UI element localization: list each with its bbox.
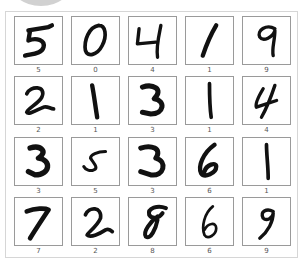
digit-image-3 — [14, 137, 63, 186]
digit-label: 4 — [242, 126, 291, 134]
digit-label: 8 — [128, 247, 177, 255]
handwritten-digit-icon — [15, 77, 62, 124]
digit-label: 5 — [71, 187, 120, 195]
digit-label: 4 — [128, 66, 177, 74]
digit-image-2 — [71, 197, 120, 246]
digit-image-1 — [242, 137, 291, 186]
handwritten-digit-icon — [243, 77, 290, 124]
digit-image-5 — [71, 137, 120, 186]
handwritten-digit-icon — [129, 138, 176, 185]
digit-image-6 — [185, 137, 234, 186]
digit-image-9 — [242, 16, 291, 65]
digit-label: 6 — [185, 247, 234, 255]
decorative-circle — [8, 0, 74, 6]
digit-image-5 — [14, 16, 63, 65]
digit-image-1 — [185, 76, 234, 125]
digit-label: 1 — [242, 187, 291, 195]
digit-image-9 — [242, 197, 291, 246]
handwritten-digit-icon — [186, 77, 233, 124]
digit-label: 6 — [185, 187, 234, 195]
handwritten-digit-icon — [243, 17, 290, 64]
digit-label: 1 — [185, 66, 234, 74]
digit-image-4 — [128, 16, 177, 65]
handwritten-digit-icon — [15, 17, 62, 64]
digit-label: 3 — [128, 126, 177, 134]
digit-label: 1 — [185, 126, 234, 134]
handwritten-digit-icon — [243, 198, 290, 245]
digit-image-7 — [14, 197, 63, 246]
digit-image-3 — [128, 76, 177, 125]
digit-label: 7 — [14, 247, 63, 255]
digit-label: 9 — [242, 247, 291, 255]
handwritten-digit-icon — [72, 17, 119, 64]
digit-label: 1 — [71, 126, 120, 134]
digit-image-6 — [185, 197, 234, 246]
handwritten-digit-icon — [129, 77, 176, 124]
handwritten-digit-icon — [186, 17, 233, 64]
handwritten-digit-icon — [186, 138, 233, 185]
digit-label: 3 — [14, 187, 63, 195]
digit-label: 0 — [71, 66, 120, 74]
digit-label: 3 — [128, 187, 177, 195]
digit-image-1 — [71, 76, 120, 125]
digit-image-3 — [128, 137, 177, 186]
digit-image-0 — [71, 16, 120, 65]
handwritten-digit-icon — [15, 198, 62, 245]
digit-label: 2 — [71, 247, 120, 255]
handwritten-digit-icon — [72, 138, 119, 185]
handwritten-digit-icon — [129, 17, 176, 64]
handwritten-digit-icon — [243, 138, 290, 185]
digit-label: 9 — [242, 66, 291, 74]
handwritten-digit-icon — [15, 138, 62, 185]
handwritten-digit-icon — [186, 198, 233, 245]
handwritten-digit-icon — [72, 77, 119, 124]
digit-image-2 — [14, 76, 63, 125]
digit-image-8 — [128, 197, 177, 246]
digit-label: 2 — [14, 126, 63, 134]
digit-image-4 — [242, 76, 291, 125]
digit-label: 5 — [14, 66, 63, 74]
digit-image-1 — [185, 16, 234, 65]
handwritten-digit-icon — [129, 198, 176, 245]
handwritten-digit-icon — [72, 198, 119, 245]
